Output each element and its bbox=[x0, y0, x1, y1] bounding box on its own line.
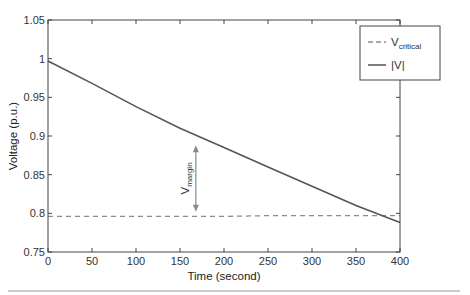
y-tick-label: 0.85 bbox=[24, 169, 45, 181]
arrow-head-down-icon bbox=[193, 205, 199, 212]
x-tick-label: 150 bbox=[171, 255, 189, 267]
plot-area bbox=[48, 61, 400, 223]
x-tick-label: 350 bbox=[347, 255, 365, 267]
arrow-head-up-icon bbox=[193, 145, 199, 152]
y-tick-label: 1.05 bbox=[24, 14, 45, 26]
y-tick-label: 1 bbox=[39, 53, 45, 65]
x-tick-label: 400 bbox=[391, 255, 409, 267]
x-tick-label: 250 bbox=[259, 255, 277, 267]
y-tick-label: 0.75 bbox=[24, 246, 45, 258]
series-v-critical bbox=[48, 216, 400, 217]
x-axis-label: Time (second) bbox=[187, 270, 260, 282]
v-margin-annotation: Vmargin bbox=[179, 145, 199, 212]
x-tick-label: 0 bbox=[45, 255, 51, 267]
legend-box bbox=[360, 26, 440, 80]
series-v-magnitude bbox=[48, 61, 400, 223]
x-tick-label: 200 bbox=[215, 255, 233, 267]
x-tick-label: 300 bbox=[303, 255, 321, 267]
chart: 0501001502002503003504000.750.80.850.90.… bbox=[0, 0, 470, 295]
legend: Vcritical|V| bbox=[360, 26, 440, 80]
legend-label: |V| bbox=[391, 59, 405, 71]
y-tick-label: 0.8 bbox=[30, 207, 45, 219]
y-axis-label: Voltage (p.u.) bbox=[7, 102, 19, 171]
x-tick-label: 50 bbox=[86, 255, 98, 267]
axes: 0501001502002503003504000.750.80.850.90.… bbox=[24, 14, 410, 267]
v-margin-label: Vmargin bbox=[179, 162, 194, 194]
plot-frame bbox=[48, 20, 400, 252]
x-tick-label: 100 bbox=[127, 255, 145, 267]
y-tick-label: 0.9 bbox=[30, 130, 45, 142]
y-tick-label: 0.95 bbox=[24, 91, 45, 103]
